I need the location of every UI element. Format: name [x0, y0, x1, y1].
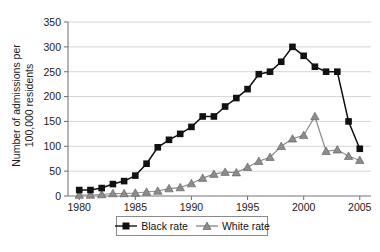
- plot-area: 0501001502002503003501980198519901995200…: [0, 0, 380, 252]
- x-axis-tick-label: 1980: [68, 201, 92, 213]
- x-axis-tick-label: 1985: [124, 201, 148, 213]
- x-axis-tick-label: 2000: [292, 201, 316, 213]
- x-axis-tick-label: 1990: [180, 201, 204, 213]
- data-point-marker: [311, 112, 319, 119]
- y-axis-tick-label: 350: [43, 16, 61, 28]
- data-point-marker: [299, 131, 307, 138]
- chart-legend: Black rate White rate: [116, 216, 268, 236]
- data-point-marker: [255, 71, 262, 78]
- data-point-marker: [267, 68, 274, 75]
- data-point-marker: [244, 86, 251, 93]
- data-point-marker: [243, 163, 251, 170]
- legend-label-black-rate: Black rate: [141, 220, 188, 232]
- data-point-marker: [177, 131, 184, 138]
- x-axis-tick-label: 1995: [236, 201, 260, 213]
- data-point-marker: [166, 137, 173, 144]
- data-point-marker: [76, 187, 83, 194]
- y-axis-tick-label: 150: [43, 115, 61, 127]
- y-axis-tick-label: 200: [43, 90, 61, 102]
- legend-entry-white-rate: White rate: [195, 220, 270, 232]
- data-point-marker: [199, 113, 206, 120]
- legend-marker-triangle-icon: [195, 220, 219, 232]
- data-point-marker: [277, 142, 285, 149]
- data-point-marker: [154, 144, 161, 151]
- data-point-marker: [344, 152, 352, 159]
- y-axis-tick-label: 300: [43, 41, 61, 53]
- y-axis-tick-label: 250: [43, 66, 61, 78]
- data-point-marker: [289, 44, 296, 51]
- legend-entry-black-rate: Black rate: [114, 220, 188, 232]
- data-point-marker: [188, 124, 195, 131]
- data-point-marker: [98, 185, 105, 192]
- y-axis-tick-label: 50: [49, 165, 61, 177]
- y-axis-tick-label: 100: [43, 140, 61, 152]
- data-point-marker: [233, 95, 240, 102]
- data-point-marker: [87, 187, 94, 194]
- data-point-marker: [132, 172, 139, 179]
- data-point-marker: [356, 145, 363, 152]
- data-point-marker: [222, 103, 229, 110]
- data-point-marker: [143, 160, 150, 167]
- data-point-marker: [345, 118, 352, 125]
- data-point-marker: [278, 58, 285, 65]
- data-point-marker: [187, 179, 195, 186]
- data-point-marker: [300, 53, 307, 60]
- line-chart: Number of admissions per 100,000 residen…: [0, 0, 380, 252]
- data-point-marker: [211, 113, 218, 120]
- x-axis-tick-label: 2005: [348, 201, 372, 213]
- data-point-marker: [110, 181, 117, 188]
- data-point-marker: [323, 68, 330, 75]
- data-point-marker: [334, 68, 341, 75]
- y-axis-tick-label: 0: [55, 190, 61, 202]
- data-point-marker: [121, 178, 128, 185]
- legend-label-white-rate: White rate: [222, 220, 270, 232]
- legend-marker-square-icon: [114, 220, 138, 232]
- series-white-rate: [75, 112, 364, 198]
- data-point-marker: [312, 63, 319, 70]
